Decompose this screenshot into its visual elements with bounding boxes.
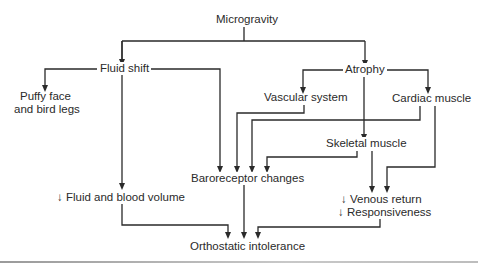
edge-microgravity-split [122, 27, 365, 41]
node-orthostatic-intolerance: Orthostatic intolerance [188, 240, 307, 253]
node-vascular-system: Vascular system [262, 91, 350, 104]
node-cardiac-muscle: Cardiac muscle [390, 92, 473, 105]
node-fluid-shift: Fluid shift [98, 62, 151, 75]
node-baroreceptor-changes: Baroreceptor changes [189, 172, 306, 185]
bottom-divider [0, 261, 478, 263]
flowchart-connectors [0, 0, 478, 265]
node-puffy-face-line2: and bird legs [12, 103, 82, 116]
node-fluid-blood-volume: ↓ Fluid and blood volume [55, 191, 187, 204]
node-puffy-face-line1: Puffy face [18, 90, 73, 103]
node-atrophy: Atrophy [343, 63, 387, 76]
node-microgravity: Microgravity [214, 13, 280, 26]
node-responsiveness: ↓ Responsiveness [336, 206, 433, 219]
node-venous-return: ↓ Venous return [339, 193, 424, 206]
node-skeletal-muscle: Skeletal muscle [324, 137, 409, 150]
